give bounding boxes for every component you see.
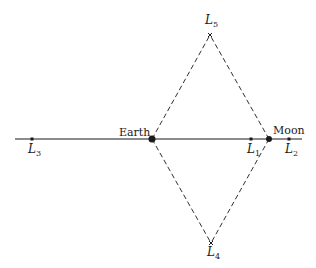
l3-label: L3 bbox=[27, 142, 41, 158]
earth-label: Earth bbox=[119, 126, 150, 139]
l3-mark bbox=[31, 138, 34, 141]
l1-label: L1 bbox=[246, 142, 260, 158]
moon-dot bbox=[266, 136, 272, 142]
l1-mark bbox=[250, 138, 253, 141]
l4-label: L4 bbox=[206, 245, 220, 261]
lagrange-diagram: Earth Moon L1 L2 L3 L4 L5 bbox=[0, 0, 316, 268]
moon-label: Moon bbox=[273, 124, 305, 137]
l2-label: L2 bbox=[284, 142, 298, 158]
l2-mark bbox=[288, 138, 291, 141]
l5-label: L5 bbox=[204, 13, 218, 29]
